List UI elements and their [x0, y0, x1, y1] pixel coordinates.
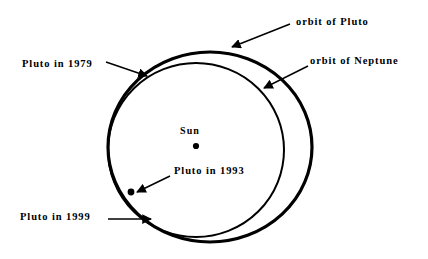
orbit-path-pluto: [108, 52, 312, 242]
label-pluto-in-1999: Pluto in 1999: [20, 212, 91, 223]
pluto-1993-marker: [128, 189, 135, 196]
label-pluto-in-1979: Pluto in 1979: [22, 59, 93, 70]
sun-marker: [193, 143, 199, 149]
label-pluto-in-1993: Pluto in 1993: [174, 166, 245, 177]
leader-line-pluto-1979: [106, 62, 147, 76]
label-orbit-of-pluto: orbit of Pluto: [296, 17, 369, 28]
label-sun: Sun: [180, 126, 200, 136]
leader-line-orbit-pluto: [232, 24, 290, 47]
leader-line-pluto-1993: [137, 176, 170, 192]
orbit-path-neptune: [108, 63, 284, 237]
label-orbit-of-neptune: orbit of Neptune: [310, 56, 398, 67]
orbit-diagram-figure: orbit of Pluto orbit of Neptune Pluto in…: [0, 0, 428, 259]
